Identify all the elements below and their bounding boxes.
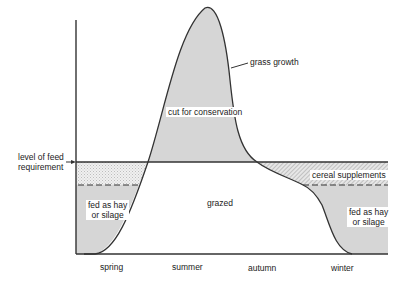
spring-supplement-area bbox=[76, 162, 148, 185]
season-autumn: autumn bbox=[248, 263, 276, 273]
fed-hay-silage-right-label: fed as hay or silage bbox=[347, 207, 390, 227]
feed-requirement-label-line1: level of feed bbox=[18, 152, 64, 162]
season-spring: spring bbox=[100, 262, 123, 272]
season-summer: summer bbox=[172, 262, 203, 272]
feed-requirement-label: level of feed requirement bbox=[18, 152, 64, 172]
grass-growth-label: grass growth bbox=[250, 57, 299, 67]
fed-left-line2: or silage bbox=[88, 210, 127, 220]
feed-requirement-label-line2: requirement bbox=[18, 162, 64, 172]
fed-left-line1: fed as hay bbox=[88, 200, 127, 210]
season-winter: winter bbox=[331, 263, 354, 273]
cut-for-conservation-label: cut for conservation bbox=[166, 107, 244, 117]
cereal-supplements-label: cereal supplements bbox=[310, 170, 388, 180]
arrow-right-icon bbox=[71, 160, 76, 164]
diagram-canvas bbox=[0, 0, 409, 283]
fed-hay-silage-left-label: fed as hay or silage bbox=[86, 200, 129, 220]
grass-growth-leader bbox=[231, 63, 248, 68]
grazed-label: grazed bbox=[207, 198, 233, 208]
fed-right-line1: fed as hay bbox=[349, 207, 388, 217]
fed-right-line2: or silage bbox=[349, 217, 388, 227]
